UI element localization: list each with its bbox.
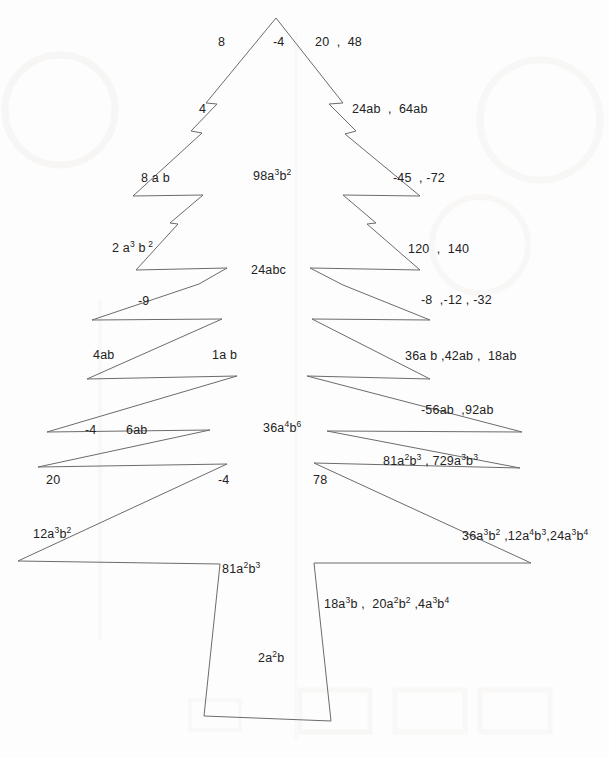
expression-label-r-36-12-24: 36a3b2 ,12a4b3,24a3b4 <box>462 530 589 544</box>
expression-label-c-81a2b3: 81a2b3 <box>222 563 261 577</box>
expression-label-c-2a2b: 2a2b <box>258 652 284 666</box>
expression-label-l-8ab: 8 a b <box>141 172 170 186</box>
expression-label-l-20: 20 <box>46 474 60 488</box>
expression-label-r-81-729: 81a2b3 , 729a3b3 <box>383 455 478 469</box>
worksheet-page: 8-420 , 48424ab , 64ab8 a b98a3b2-45 , -… <box>0 0 609 758</box>
expression-label-r-45-72: -45 , -72 <box>393 172 445 186</box>
expression-label-c-24abc: 24abc <box>251 264 286 278</box>
expression-label-c-1ab: 1a b <box>212 349 237 363</box>
expression-label-r-24ab: 24ab , 64ab <box>352 103 428 117</box>
tree-trunk-path <box>204 563 331 721</box>
expression-label-l-neg4-mid: -4 <box>85 424 97 438</box>
expression-label-r-20-48: 20 , 48 <box>315 36 362 50</box>
expression-label-l-6ab: 6ab <box>126 424 147 438</box>
expression-label-r-18-20-4: 18a3b , 20a2b2 ,4a3b4 <box>324 598 449 612</box>
expression-label-r-36a-42-18: 36a b ,42ab , 18ab <box>405 350 517 364</box>
expression-label-l-2a3b2: 2 a3 b 2 <box>112 242 153 256</box>
expression-label-c-98a3b2: 98a3b2 <box>253 170 292 184</box>
expression-label-l-neg9: -9 <box>138 295 150 309</box>
expression-label-c-36a4b6: 36a4b6 <box>263 422 302 436</box>
christmas-tree-drawing <box>0 0 609 758</box>
expression-label-l-12a3b2: 12a3b2 <box>33 528 72 542</box>
expression-label-l-neg4-top: -4 <box>273 36 285 50</box>
expression-label-l-neg4-low: -4 <box>218 474 230 488</box>
expression-label-r-56-92: -56ab ,92ab <box>421 404 494 418</box>
expression-label-r-120-140: 120 , 140 <box>408 243 469 257</box>
expression-label-l-8: 8 <box>218 36 225 50</box>
expression-label-l-4ab: 4ab <box>93 349 114 363</box>
expression-label-l-4: 4 <box>199 103 206 117</box>
expression-label-r-78: 78 <box>313 474 327 488</box>
expression-label-r-8-12-32: -8 ,-12 , -32 <box>421 294 492 308</box>
